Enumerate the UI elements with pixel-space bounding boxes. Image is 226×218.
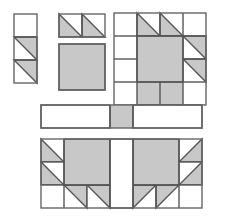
shaded-patch [137,82,160,105]
merged-shaded-area [64,139,110,185]
merged-light-area [41,105,110,128]
light-patch [114,59,137,82]
light-patch [183,13,206,36]
paw-block-unit [114,13,206,105]
merged-light-area [110,139,133,208]
shaded-patch [160,82,183,105]
mirrored-pair-unit [41,139,202,208]
quilt-diagram-page [0,0,226,218]
merged-shaded-area [137,36,183,82]
light-patch [114,13,137,36]
light-patch [114,36,137,59]
light-patch [14,14,37,37]
merged-shaded-area [59,44,105,90]
light-patch [114,82,137,105]
center-square-unit [59,44,105,90]
sashing-unit [41,105,202,128]
merged-light-area [133,105,202,128]
light-patch [179,185,202,208]
merged-shaded-area [133,139,179,185]
shaded-patch [110,105,133,128]
light-patch [183,82,206,105]
strip-unit [14,14,37,83]
quilt-diagram-canvas [0,0,226,218]
hst-pair-unit [59,14,105,37]
light-patch [41,185,64,208]
